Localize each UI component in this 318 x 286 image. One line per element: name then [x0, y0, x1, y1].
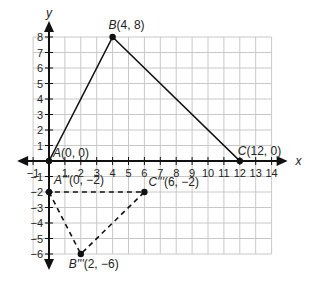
coordinate-plane: xy −1123456789101112131487654321−1−2−3−4…: [0, 0, 318, 286]
y-tick-label: −6: [30, 248, 43, 260]
x-tick-label: 5: [125, 167, 131, 179]
y-tick-label: −2: [30, 186, 43, 198]
y-tick-label: 6: [37, 62, 43, 74]
x-tick-label: 11: [218, 167, 229, 179]
y-tick-label: 2: [37, 124, 43, 136]
y-axis-label: y: [45, 6, 53, 20]
point-label: B(4, 8): [109, 18, 145, 32]
y-tick-label: −3: [30, 202, 43, 214]
x-tick-label: 12: [234, 167, 246, 179]
point-cppp: [141, 189, 147, 195]
x-tick-label: 14: [265, 167, 277, 179]
y-tick-label: 4: [37, 93, 43, 105]
point-label: C(12, 0): [238, 144, 281, 158]
y-tick-label: 3: [37, 109, 43, 121]
point-c: [237, 158, 243, 164]
point-label: C'''(6, −2): [148, 175, 199, 189]
point-label: A(0, 0): [52, 146, 89, 160]
point-appp: [46, 189, 52, 195]
y-tick-label: 5: [37, 78, 43, 90]
y-tick-label: 8: [37, 31, 43, 43]
y-axis-arrow-up-icon: [44, 21, 54, 32]
x-tick-label: 6: [141, 167, 147, 179]
point-label: B'''(2, −6): [69, 257, 119, 271]
y-axis-arrow-down-icon: [44, 259, 54, 270]
x-axis-arrow-left-icon: [17, 156, 28, 166]
x-tick-label: 13: [250, 167, 262, 179]
x-tick-label: 10: [202, 167, 214, 179]
y-tick-label: 1: [37, 140, 43, 152]
point-label: A'''(0, −2): [53, 173, 104, 187]
y-tick-label: 7: [37, 47, 43, 59]
point-a: [46, 158, 52, 164]
y-tick-label: −5: [30, 233, 43, 245]
x-axis-label: x: [295, 154, 303, 168]
y-tick-label: −4: [30, 217, 43, 229]
point-b: [109, 34, 115, 40]
y-tick-label: −1: [30, 171, 43, 183]
x-tick-label: 4: [110, 167, 116, 179]
